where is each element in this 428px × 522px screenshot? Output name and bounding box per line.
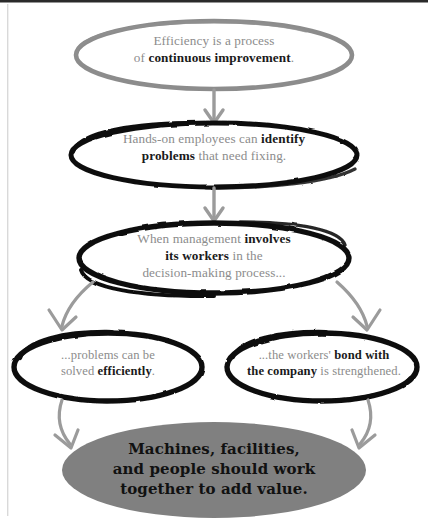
arrow-2-down — [205, 188, 223, 221]
node-6-label: Machines, facilities,and people should w… — [96, 440, 332, 499]
arrow-5-down-right — [55, 400, 78, 448]
top-edge-line — [0, 0, 428, 3]
node-3-label: When management involvesits workers in t… — [90, 231, 338, 282]
node-2-label: Hands-on employees can identifyproblems … — [80, 131, 348, 165]
arrow-6-down-left — [352, 400, 375, 448]
node-5-label: ...the workers' bond withthe company is … — [236, 347, 412, 379]
node-1-label: Efficiency is a processof continuous imp… — [96, 33, 332, 67]
arrow-1-down — [205, 90, 223, 123]
arrow-3-down-left — [49, 282, 93, 330]
left-edge-line — [7, 4, 8, 516]
node-4-label: ...problems can besolved efficiently. — [32, 347, 184, 379]
flow-chart-diagram: Efficiency is a processof continuous imp… — [0, 0, 428, 522]
arrow-4-down-right — [337, 282, 380, 330]
